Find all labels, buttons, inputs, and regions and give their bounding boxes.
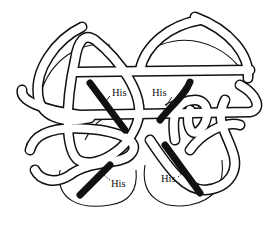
his-label-top-right: His — [152, 87, 167, 98]
his-label-bottom-left: His — [111, 178, 126, 189]
backbone-tube-fill — [22, 17, 257, 190]
his-label-top-left: His — [112, 87, 127, 98]
protein-structure-diagram: His His His His — [0, 0, 276, 226]
his-label-bottom-right: His — [161, 173, 176, 184]
